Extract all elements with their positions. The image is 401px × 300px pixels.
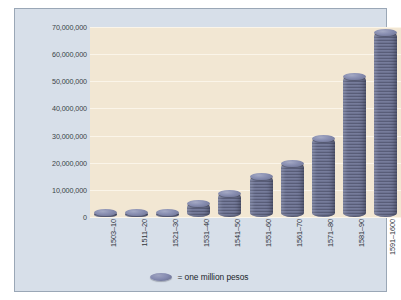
bar — [374, 32, 397, 217]
bar-top-coin — [281, 160, 304, 167]
x-axis-tick-label: 1551–60 — [264, 219, 273, 247]
bar-series — [90, 27, 401, 217]
y-axis-tick-label: 30,000,000 — [52, 131, 87, 140]
legend-label: = one million pesos — [178, 272, 249, 282]
y-axis-tick-label: 50,000,000 — [52, 77, 87, 86]
bar — [218, 193, 241, 217]
y-axis-labels: 70,000,00060,000,00050,000,00040,000,000… — [31, 17, 87, 217]
bar — [156, 212, 179, 217]
x-axis-tick-label: 1521–30 — [171, 219, 180, 247]
y-axis-tick-label: 0 — [83, 213, 87, 222]
bar — [125, 212, 148, 217]
gridline — [90, 217, 401, 218]
x-axis-tick-label: 1571–80 — [326, 219, 335, 247]
bar — [250, 176, 273, 217]
chart-card: 70,000,00060,000,00050,000,00040,000,000… — [14, 8, 387, 292]
bar-top-coin — [125, 209, 148, 216]
bar-top-coin — [94, 209, 117, 216]
bar-top-coin — [343, 73, 366, 80]
bar — [281, 163, 304, 217]
y-axis-tick-label: 60,000,000 — [52, 50, 87, 59]
x-axis-tick-label: 1503–10 — [109, 219, 118, 247]
x-axis-tick-label: 1561–70 — [295, 219, 304, 247]
x-axis-labels: 1503–101511–201521–301531–401541–501551–… — [90, 219, 401, 277]
x-axis-tick-label: 1581–90 — [357, 219, 366, 247]
bar-top-coin — [218, 190, 241, 197]
bar-top-coin — [312, 135, 335, 142]
chart-legend: = one million pesos — [0, 272, 398, 282]
y-axis-tick-label: 70,000,000 — [52, 23, 87, 32]
x-axis-tick-label: 1541–50 — [233, 219, 242, 247]
x-axis-tick-label: 1531–40 — [202, 219, 211, 247]
bar — [187, 203, 210, 217]
bar-top-coin — [156, 209, 179, 216]
bar-top-coin — [374, 29, 397, 36]
y-axis-tick-label: 10,000,000 — [52, 185, 87, 194]
bar — [312, 138, 335, 217]
bar-top-coin — [187, 200, 210, 207]
coin-icon — [150, 273, 172, 281]
bar-top-coin — [250, 173, 273, 180]
x-axis-tick-label: 1511–20 — [140, 219, 149, 247]
x-axis-tick-label: 1591–1600 — [388, 219, 397, 255]
bar — [94, 212, 117, 217]
bar — [343, 76, 366, 217]
y-axis-tick-label: 40,000,000 — [52, 104, 87, 113]
y-axis-tick-label: 20,000,000 — [52, 158, 87, 167]
